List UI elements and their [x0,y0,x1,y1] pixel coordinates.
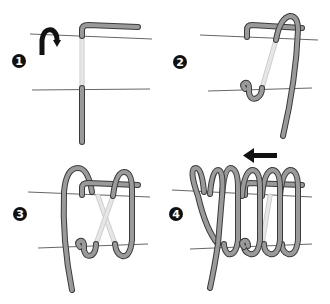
step-4-panel: 4 [169,148,312,288]
step-1-panel: 1 [12,25,152,142]
arrow-left-icon [243,148,277,163]
top-guide-line [30,34,152,39]
svg-text:3: 3 [16,208,24,221]
step-1-badge: 1 [12,54,26,68]
svg-text:2: 2 [176,56,184,69]
curved-arrow-icon [42,30,61,55]
wrapping-diagram: 1 2 [0,0,330,304]
diagram-canvas: 1 2 [0,0,330,304]
svg-text:4: 4 [172,208,180,221]
step-4-badge: 4 [169,207,183,221]
step-3-badge: 3 [13,207,27,221]
step-2-badge: 2 [173,55,187,69]
step-2-panel: 2 [173,16,318,136]
step-3-panel: 3 [13,168,150,290]
svg-text:1: 1 [15,55,23,68]
bottom-guide-line [32,89,150,90]
